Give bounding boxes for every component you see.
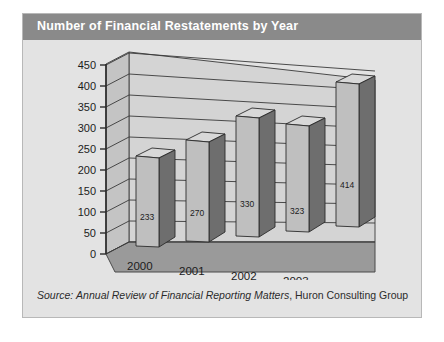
source-label: Source: xyxy=(37,289,73,301)
bar-value-2004: 414 xyxy=(340,180,354,190)
bar-value-2000: 233 xyxy=(140,212,154,222)
y-tick-350: 350 xyxy=(78,101,96,113)
source-separator: , xyxy=(289,289,292,301)
bar-group-2003[interactable]: 323 xyxy=(286,116,325,232)
y-tick-150: 150 xyxy=(78,185,96,197)
bar-side-2001 xyxy=(209,134,225,242)
y-tick-200: 200 xyxy=(78,164,96,176)
bar-side-2002 xyxy=(259,110,275,237)
bar-side-2003 xyxy=(309,118,325,232)
y-tick-250: 250 xyxy=(78,143,96,155)
bar-side-2004 xyxy=(359,76,375,227)
x-label-2001: 2001 xyxy=(179,265,205,277)
source-caption: Source: Annual Review of Financial Repor… xyxy=(37,289,408,301)
x-label-2003: 2003 xyxy=(283,275,309,280)
chart-left-wall xyxy=(106,52,129,254)
y-tick-450: 450 xyxy=(78,59,96,71)
source-organization: Huron Consulting Group xyxy=(295,289,408,301)
bar-group-2001[interactable]: 270 xyxy=(186,132,225,242)
bar-value-2001: 270 xyxy=(190,208,204,218)
figure-title-banner: Number of Financial Restatements by Year xyxy=(23,14,421,40)
y-tick-100: 100 xyxy=(78,206,96,218)
figure-title: Number of Financial Restatements by Year xyxy=(37,19,298,33)
bar-front-2000 xyxy=(136,156,159,247)
bar-front-2001 xyxy=(186,140,209,242)
bar-group-2004[interactable]: 414 xyxy=(336,74,375,227)
y-tick-50: 50 xyxy=(84,227,96,239)
y-axis-tick-labels: 0 50 100 150 200 250 300 350 400 450 xyxy=(78,59,96,260)
figure-container: Number of Financial Restatements by Year xyxy=(22,13,422,318)
chart-area: 0 50 100 150 200 250 300 350 400 450 233 xyxy=(23,40,423,280)
y-tick-0: 0 xyxy=(90,248,96,260)
bar-front-2004 xyxy=(336,82,359,227)
source-publication: Annual Review of Financial Reporting Mat… xyxy=(76,289,289,301)
bar-front-2002 xyxy=(236,116,259,237)
bar-group-2000[interactable]: 233 xyxy=(136,148,175,247)
x-label-2002: 2002 xyxy=(231,270,257,280)
bar-group-2002[interactable]: 330 xyxy=(236,108,275,237)
x-label-2000: 2000 xyxy=(127,260,153,272)
bar-value-2003: 323 xyxy=(290,206,304,216)
y-tick-400: 400 xyxy=(78,80,96,92)
bar-side-2000 xyxy=(159,150,175,247)
bar-value-2002: 330 xyxy=(240,199,254,209)
bar-chart-3d: 0 50 100 150 200 250 300 350 400 450 233 xyxy=(23,40,423,280)
y-tick-300: 300 xyxy=(78,122,96,134)
y-axis-ticks xyxy=(100,65,106,254)
